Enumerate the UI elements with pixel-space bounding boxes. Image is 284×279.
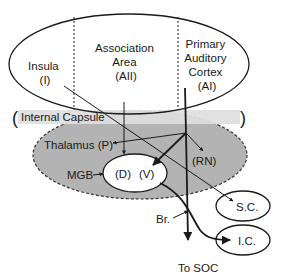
- auditory-pathway-diagram: Insula (I) Association Area (AII) Primar…: [0, 0, 284, 279]
- mgb-dorsal-label: (D): [115, 168, 131, 180]
- mgb-label: MGB: [67, 169, 94, 181]
- br-label: Br.: [156, 213, 170, 225]
- ic-label: I.C.: [238, 235, 256, 247]
- br-pointer: [173, 211, 188, 218]
- mgb-ventral-label: (V): [139, 168, 155, 180]
- capsule-close-paren: ): [240, 108, 246, 128]
- insula-label: Insula (I): [28, 60, 62, 86]
- rn-label: (RN): [192, 155, 216, 167]
- association-area-label: Association Area (AII): [95, 42, 157, 82]
- to-soc-label: To SOC: [178, 262, 218, 274]
- sc-label: S.C.: [236, 201, 258, 213]
- thalamus-label: Thalamus (P): [44, 139, 113, 151]
- primary-auditory-cortex-label: Primary Auditory Cortex (AI): [184, 38, 229, 92]
- capsule-open-paren: (: [12, 108, 18, 128]
- internal-capsule-label: Internal Capsule: [21, 111, 105, 123]
